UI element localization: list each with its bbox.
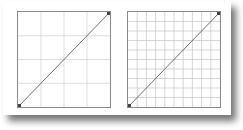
right-plot-canvas (128, 12, 220, 107)
data-point-marker (107, 12, 110, 15)
data-point-marker (217, 12, 220, 15)
left-plot-canvas (18, 12, 110, 107)
data-point-marker (18, 104, 21, 107)
left-plot-panel (17, 11, 111, 108)
data-point-marker (128, 104, 131, 107)
right-plot-panel (127, 11, 221, 108)
figure-card (3, 1, 231, 115)
screenshot-root (0, 0, 243, 130)
